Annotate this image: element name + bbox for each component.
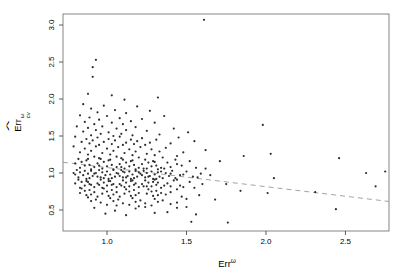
data-point [157, 168, 159, 170]
y-axis-label-sub: cv [25, 112, 31, 118]
data-point [88, 177, 90, 179]
data-point [141, 137, 143, 139]
data-point [133, 143, 135, 145]
data-point [141, 163, 143, 165]
data-point [123, 99, 125, 101]
data-point [128, 148, 130, 150]
data-point [120, 169, 122, 171]
data-point [170, 173, 172, 175]
data-point [135, 150, 137, 152]
data-point [120, 185, 122, 187]
data-point [155, 165, 157, 167]
data-point [338, 157, 340, 159]
data-point [176, 202, 178, 204]
data-point [106, 165, 108, 167]
data-point [154, 154, 156, 156]
data-point [98, 184, 100, 186]
data-point [122, 179, 124, 181]
data-point [95, 199, 97, 201]
data-point [119, 136, 121, 138]
data-point [150, 204, 152, 206]
data-point [90, 193, 92, 195]
x-tick-label: 1.0 [101, 237, 113, 246]
data-point [146, 172, 148, 174]
data-point [106, 115, 108, 117]
data-point [100, 133, 102, 135]
data-point [112, 200, 114, 202]
data-point [87, 93, 89, 95]
data-point [314, 191, 316, 193]
data-point [116, 186, 118, 188]
data-point [95, 59, 97, 61]
data-point [144, 179, 146, 181]
data-point [185, 170, 187, 172]
data-point [87, 196, 89, 198]
data-point [125, 129, 127, 131]
data-point [162, 199, 164, 201]
data-point [170, 166, 172, 168]
data-point [176, 155, 178, 157]
data-point [190, 221, 192, 223]
data-point [176, 163, 178, 165]
data-point [176, 188, 178, 190]
data-point [85, 138, 87, 140]
data-point [116, 128, 118, 130]
data-point [171, 170, 173, 172]
y-tick-label: 2.0 [47, 93, 56, 105]
data-point [147, 188, 149, 190]
data-point [96, 136, 98, 138]
data-point [87, 173, 89, 175]
data-point [146, 130, 148, 132]
data-point [139, 199, 141, 201]
data-point [270, 153, 272, 155]
data-point [146, 185, 148, 187]
data-point [116, 156, 118, 158]
data-point [170, 203, 172, 205]
y-tick-label: 3.0 [47, 19, 56, 31]
data-point [103, 141, 105, 143]
data-point [136, 105, 138, 107]
data-point [141, 118, 143, 120]
data-point [143, 185, 145, 187]
data-point [181, 165, 183, 167]
data-point [154, 179, 156, 181]
data-point [166, 211, 168, 213]
data-point [85, 194, 87, 196]
data-point [189, 181, 191, 183]
data-point [96, 162, 98, 164]
data-point [84, 148, 86, 150]
x-axis-label-sup: ω [231, 257, 236, 264]
data-point [182, 151, 184, 153]
data-point [143, 168, 145, 170]
data-point [84, 190, 86, 192]
data-point [128, 165, 130, 167]
data-point [82, 174, 84, 176]
data-point [193, 187, 195, 189]
data-point [76, 169, 78, 171]
data-point [267, 192, 269, 194]
data-point [163, 115, 165, 117]
data-point [131, 179, 133, 181]
data-point [122, 159, 124, 161]
data-point [147, 162, 149, 164]
data-point [157, 201, 159, 203]
data-point [166, 162, 168, 164]
data-point [84, 185, 86, 187]
data-point [182, 173, 184, 175]
data-point [239, 190, 241, 192]
data-point [93, 186, 95, 188]
data-point [101, 168, 103, 170]
data-point [157, 182, 159, 184]
data-point [125, 214, 127, 216]
data-point [112, 169, 114, 171]
data-point [375, 185, 377, 187]
data-point [93, 191, 95, 193]
data-point [125, 182, 127, 184]
y-tick-label: 1.5 [47, 130, 56, 142]
data-point [119, 117, 121, 119]
data-point [219, 160, 221, 162]
data-point [168, 175, 170, 177]
data-point [73, 172, 75, 174]
data-point [79, 167, 81, 169]
data-point [112, 183, 114, 185]
